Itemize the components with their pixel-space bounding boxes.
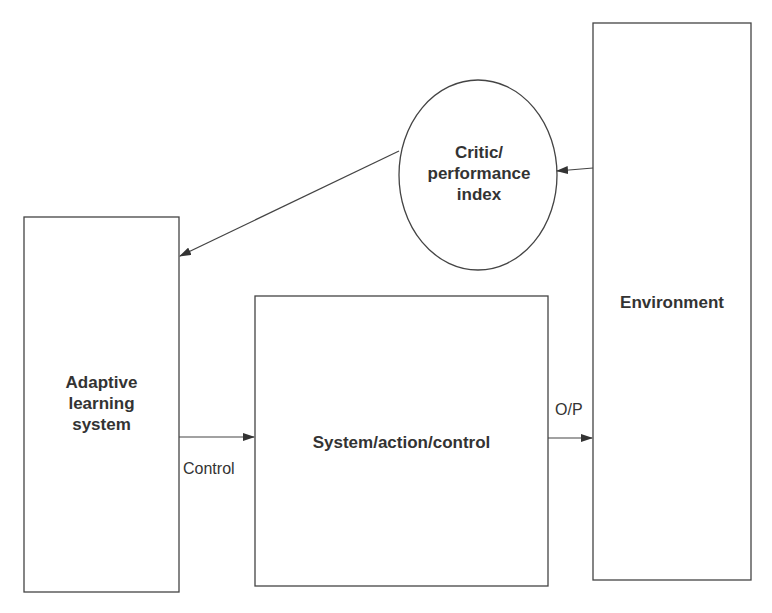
environment-label: Environment xyxy=(593,292,751,313)
critic-label-line-2: performance xyxy=(409,163,549,184)
critic-label: Critic/ performance index xyxy=(409,142,549,205)
adaptive-label: Adaptive learning system xyxy=(24,372,179,435)
environment-to-critic-arrow xyxy=(557,168,593,171)
adaptive-label-line-1: Adaptive xyxy=(24,372,179,393)
critic-to-adaptive-arrow xyxy=(180,151,399,256)
critic-label-line-3: index xyxy=(409,184,549,205)
output-edge-label: O/P xyxy=(555,401,583,419)
system-label: System/action/control xyxy=(255,432,548,453)
adaptive-label-line-2: learning xyxy=(24,393,179,414)
critic-label-line-1: Critic/ xyxy=(409,142,549,163)
adaptive-label-line-3: system xyxy=(24,414,179,435)
control-edge-label: Control xyxy=(183,460,235,478)
